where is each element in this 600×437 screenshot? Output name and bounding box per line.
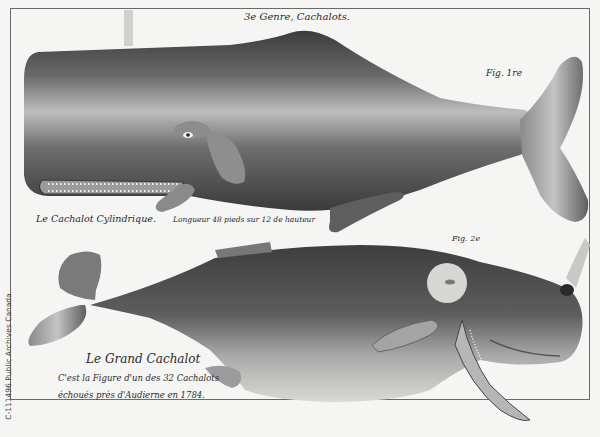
figure-1-name: Le Cachalot Cylindrique. [36,213,156,224]
plate-heading: 3e Genre, Cachalots. [244,11,350,22]
figure-2-name: Le Grand Cachalot [86,352,200,366]
figure-1-description: Longueur 48 pieds sur 12 de hauteur [173,215,315,224]
figure-1-label: Fig. 1re [486,68,522,78]
whale-figure-1 [24,10,588,232]
figure-2-label: Fig. 2e [452,234,480,243]
figure-2-description-line2: échoués près d'Audierne en 1784. [58,390,205,400]
archive-credit: C-111496 Public Archives Canada [4,287,13,427]
engraving-plate: 3e Genre, Cachalots. Fig. 1re Le Cachalo… [0,0,600,437]
figure-2-description-line1: C'est la Figure d'un des 32 Cachalots [58,373,219,383]
